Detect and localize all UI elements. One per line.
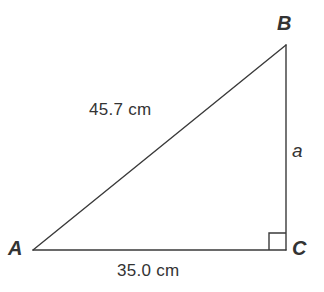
measurement-label-hypotenuse: 45.7 cm [89,101,152,118]
vertex-label-c: C [292,238,307,258]
measurement-label-vertical-side: a [292,141,303,160]
vertex-label-a: A [8,238,23,258]
side-hypotenuse-ab [33,45,286,250]
right-angle-marker-icon [269,233,286,250]
vertex-label-b: B [277,13,292,33]
triangle-figure: A B C 45.7 cm 35.0 cm a [0,0,324,292]
triangle-drawing [0,0,324,292]
measurement-label-base: 35.0 cm [117,262,180,279]
